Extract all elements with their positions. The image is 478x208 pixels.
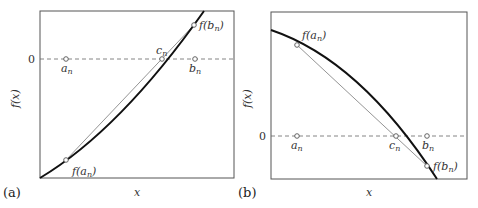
panel-a-c-n-label: cn bbox=[156, 44, 167, 58]
panel-b-c-n-label: cn bbox=[389, 139, 400, 153]
panel-b-function-curve bbox=[271, 30, 437, 179]
panel-b-f-a-n-label: f(an) bbox=[301, 29, 326, 43]
panel-b-zero-label: 0 bbox=[259, 130, 266, 143]
panel-a-f-b-n-label: f(bn) bbox=[198, 19, 224, 33]
panel-a-f-a-n-label: f(an) bbox=[71, 165, 96, 179]
panel-a-a-n-label: an bbox=[61, 62, 73, 76]
panel-b-f-b-n-marker bbox=[425, 164, 430, 169]
panel-b-c-n-marker bbox=[394, 134, 399, 139]
panel-b-a-n-marker bbox=[295, 134, 300, 139]
panel-a-ylabel: f(x) bbox=[9, 89, 22, 109]
panel-a-label: (a) bbox=[3, 185, 21, 200]
panel-b-frame bbox=[271, 12, 467, 179]
panel-b-b-n-marker bbox=[425, 134, 430, 139]
panel-b-f-b-n-label: f(bn) bbox=[432, 160, 458, 174]
regula-falsi-figure: 0 an bn cn f(an) f(bn) x f(x) (a) 0 an b… bbox=[0, 0, 478, 208]
panel-b: 0 an bn cn f(an) f(bn) x f(x) (b) bbox=[238, 12, 467, 200]
panel-b-a-n-label: an bbox=[291, 139, 303, 153]
panel-a-chord bbox=[66, 25, 194, 160]
panel-a-b-n-label: bn bbox=[189, 62, 201, 76]
panel-b-xlabel: x bbox=[366, 186, 373, 199]
panel-a-xlabel: x bbox=[134, 186, 141, 199]
panel-a: 0 an bn cn f(an) f(bn) x f(x) (a) bbox=[3, 11, 234, 200]
panel-a-a-n-marker bbox=[64, 57, 69, 62]
panel-b-chord bbox=[297, 45, 427, 166]
panel-a-zero-label: 0 bbox=[28, 53, 35, 66]
panel-a-function-curve bbox=[40, 11, 204, 178]
panel-b-label: (b) bbox=[238, 185, 256, 200]
panel-b-f-a-n-marker bbox=[295, 43, 300, 48]
panel-b-ylabel: f(x) bbox=[241, 89, 254, 109]
panel-a-f-a-n-marker bbox=[64, 158, 69, 163]
panel-a-b-n-marker bbox=[193, 57, 198, 62]
panel-b-b-n-label: bn bbox=[422, 139, 434, 153]
panel-a-f-b-n-marker bbox=[192, 23, 197, 28]
